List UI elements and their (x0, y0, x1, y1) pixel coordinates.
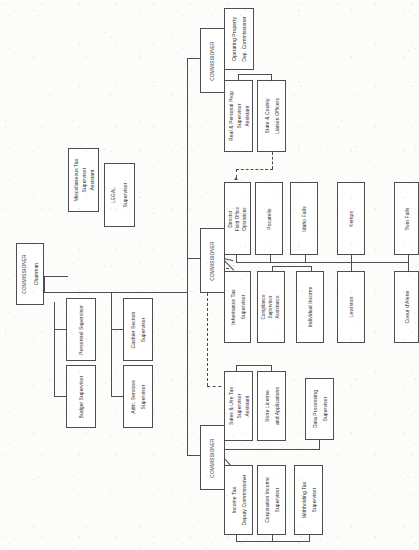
node-income-tax[interactable]: Income Tax Deputy Commissioner (224, 465, 253, 535)
connector-staff-b-trunk (111, 302, 112, 396)
node-twin-falls[interactable]: Twin Falls (394, 182, 419, 255)
node-commissioner-chairman[interactable]: COMMISSIONER Chairman (16, 243, 44, 305)
node-individual-income-line1: Individual Income (307, 287, 313, 328)
node-miscellaneous-tax-line1: Miscellaneous Tax (72, 159, 78, 201)
node-sales-use-tax[interactable]: Sales & Use Tax Supervisor Assistant (224, 371, 253, 441)
node-commissioner-top-line1: COMMISSIONER (210, 41, 216, 80)
node-store-license-line1: Store License (263, 390, 269, 422)
node-personnel-supervisor-line1: Personnel Supervisor (78, 305, 84, 355)
node-miscellaneous-tax[interactable]: Miscellaneous Tax Supervisor Assistant (68, 148, 99, 212)
node-personnel-supervisor[interactable]: Personnel Supervisor (66, 298, 96, 361)
node-inheritance-tax-line1: Inheritance Tax (229, 289, 235, 324)
node-legal-line2: Supervisor (121, 183, 127, 208)
connector-prop-bracket-top (238, 74, 272, 75)
node-director-field-office-line2: Field Office (235, 206, 241, 230)
connector-bus-riser-director (236, 255, 237, 263)
node-lewiston[interactable]: Lewiston (337, 271, 365, 343)
node-store-license[interactable]: Store License and Applications (257, 371, 286, 441)
connector-bus-to-commissioner-mid (187, 258, 200, 259)
node-state-county-liaison-line2: Liaison Officers (273, 98, 279, 134)
connector-bus-riser-pocatello (270, 255, 271, 263)
node-inheritance-tax[interactable]: Inheritance Tax Supervisor (224, 271, 251, 343)
node-miscellaneous-tax-line2: Supervisor (80, 168, 86, 193)
connector-chairman-to-misc (44, 276, 68, 277)
connector-bus-to-commissioner-top (187, 58, 200, 59)
node-cashier-section-line2: Supervisor (140, 317, 146, 342)
node-sales-use-tax-line1: Sales & Use Tax (227, 387, 233, 425)
node-legal-line1: LEGAL (111, 187, 117, 203)
node-state-county-liaison-line1: State & County (263, 98, 269, 133)
connector-bus-to-commissioner-bot (187, 455, 200, 456)
node-commissioner-mid[interactable]: COMMISSIONER (200, 228, 225, 293)
node-cashier-section-line1: Cashier Section (130, 311, 136, 348)
connector-withholding-riser (309, 535, 310, 542)
node-director-field-office[interactable]: Director Field Office Operations (224, 182, 251, 255)
node-operating-property-line1: Operating Property (231, 17, 237, 61)
connector-dashed-arrow-director (234, 177, 238, 180)
node-individual-income[interactable]: Individual Income (296, 271, 324, 343)
node-sales-use-tax-line2: Supervisor (235, 394, 241, 419)
connector-bus-down-coeur (408, 262, 409, 271)
node-director-field-office-line1: Director (228, 210, 234, 227)
connector-chairman-vert-left (44, 276, 45, 293)
node-withholding-tax[interactable]: Withholding Tax Supervisor (294, 465, 323, 535)
node-compliance[interactable]: Compliance Supervisor Assistance (257, 271, 285, 343)
node-lewiston-line1: Lewiston (348, 297, 354, 318)
node-cashier-section[interactable]: Cashier Section Supervisor (123, 298, 153, 361)
connector-income-tax-bracket (236, 541, 310, 542)
node-sales-use-tax-line3: Assistant (243, 395, 249, 416)
connector-compliance-bus (272, 266, 312, 267)
node-pocatello-line1: Pocatello (266, 208, 272, 229)
node-director-field-office-line3: Operations (242, 207, 248, 230)
node-corporation-income-line2: Supervisor (273, 488, 279, 513)
node-commissioner-bot[interactable]: COMMISSIONER (200, 425, 225, 490)
node-idaho-falls-line1: Idaho Falls (301, 206, 307, 232)
node-adm-services-line2: Supervisor (140, 384, 146, 409)
connector-corporation-riser (272, 535, 273, 542)
connector-staff-a-to-personnel (54, 329, 66, 330)
node-coeur-dalene[interactable]: Coeur d'Alene (394, 271, 419, 343)
organization-chart: COMMISSIONER Chairman Miscellaneous Tax … (0, 0, 419, 550)
connector-sales-bracket (236, 365, 272, 366)
node-idaho-falls[interactable]: Idaho Falls (290, 182, 318, 255)
node-data-processing-line2: Supervisor (321, 397, 327, 422)
node-commissioner-chairman-line2: Chairman (33, 263, 39, 285)
connector-staff-a-trunk (54, 302, 55, 396)
node-compliance-line2: Supervisor (268, 296, 274, 319)
node-real-personal-property-line3: Assistant (243, 105, 249, 126)
node-commissioner-mid-line1: COMMISSIONER (210, 241, 216, 280)
connector-staff-a-to-budget (54, 396, 66, 397)
node-miscellaneous-tax-line3: Assistant (88, 169, 94, 190)
node-budget-supervisor[interactable]: Budget Supervisor (66, 365, 96, 428)
node-legal[interactable]: LEGAL Supervisor (104, 163, 135, 227)
node-adm-services-line1: Adm. Services (130, 380, 136, 414)
node-pocatello[interactable]: Pocatello (255, 182, 283, 255)
node-commissioner-top[interactable]: COMMISSIONER (200, 28, 225, 93)
connector-main-bus-vertical (187, 58, 188, 456)
node-real-personal-property[interactable]: Real & Personal Prop Supervisor Assistan… (224, 80, 253, 152)
node-store-license-line2: and Applications (273, 387, 279, 425)
connector-dashed-state-county-down (272, 152, 273, 169)
node-corporation-income-line1: Corporation Income (263, 477, 269, 523)
node-real-personal-property-line1: Real & Personal Prop (227, 91, 233, 141)
node-withholding-tax-line2: Supervisor (310, 488, 316, 513)
node-corporation-income[interactable]: Corporation Income Supervisor (257, 465, 286, 535)
connector-field-office-bus (236, 262, 409, 263)
node-compliance-line3: Assistance (275, 295, 281, 318)
node-inheritance-tax-line2: Supervisor (239, 295, 245, 320)
node-kemps-line1: Kemps (348, 210, 354, 226)
node-withholding-tax-line1: Withholding Tax (300, 482, 306, 519)
node-state-county-liaison[interactable]: State & County Liaison Officers (257, 80, 286, 152)
node-income-tax-line1: Income Tax (230, 487, 236, 513)
node-commissioner-bot-line1: COMMISSIONER (210, 438, 216, 477)
node-operating-property[interactable]: Operating Property Dep. Commissioner (224, 8, 254, 70)
connector-dashed-state-county-across (236, 169, 273, 170)
connector-income-tax-left (236, 535, 237, 542)
node-data-processing-line1: Data Processing (311, 390, 317, 428)
connector-staff-b-to-adm (111, 396, 123, 397)
node-kemps[interactable]: Kemps (337, 182, 365, 255)
node-data-processing[interactable]: Data Processing Supervisor (305, 378, 334, 440)
connector-staff-b-riser (111, 292, 112, 303)
node-twin-falls-line1: Twin Falls (403, 207, 409, 230)
node-adm-services[interactable]: Adm. Services Supervisor (123, 365, 153, 428)
